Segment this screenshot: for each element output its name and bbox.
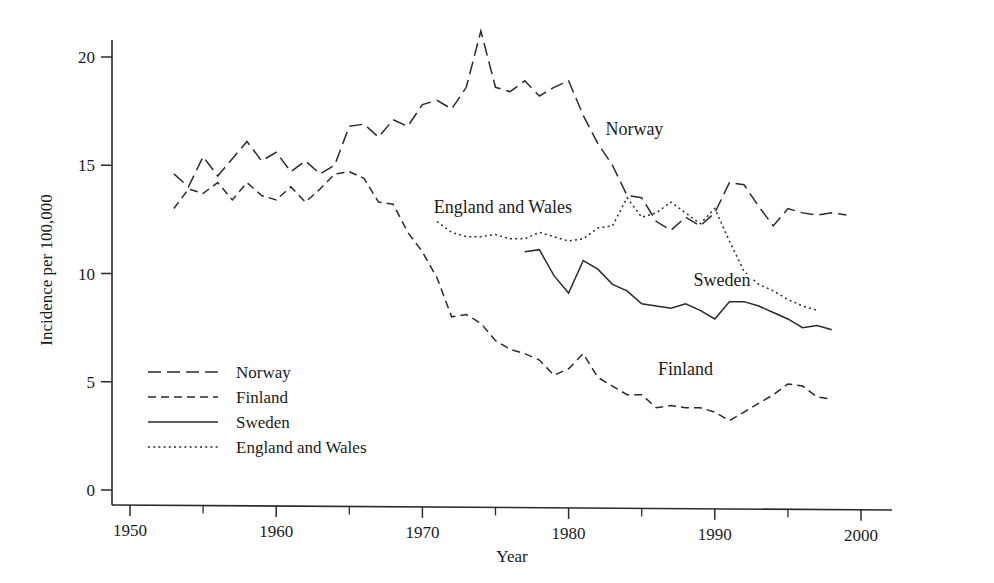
y-tick-label: 20 xyxy=(78,48,95,67)
inline-label-finland: Finland xyxy=(658,359,713,379)
legend-label-norway: Norway xyxy=(236,363,291,382)
x-axis-title: Year xyxy=(496,547,528,566)
inline-series-labels: NorwayNorwayEngland and WalesEngland and… xyxy=(434,119,751,379)
x-tick-label: 1980 xyxy=(552,524,586,543)
x-tick-label: 1960 xyxy=(259,522,293,541)
chart-container: 05101520195019601970198019902000 NorwayN… xyxy=(0,0,994,583)
inline-label-norway: Norway xyxy=(605,119,663,139)
axes: 05101520195019601970198019902000 xyxy=(78,40,892,545)
y-axis-title: Incidence per 100,000 xyxy=(37,194,56,346)
x-axis-line xyxy=(112,505,892,510)
legend: NorwayFinlandSwedenEngland and Wales xyxy=(148,363,367,457)
y-tick-label: 10 xyxy=(78,265,95,284)
x-tick-label: 2000 xyxy=(844,526,878,545)
x-tick-label: 1990 xyxy=(698,525,732,544)
legend-label-finland: Finland xyxy=(236,388,288,407)
x-tick-label: 1950 xyxy=(113,521,147,540)
y-tick-label: 15 xyxy=(78,156,95,175)
series-line-sweden xyxy=(525,250,832,330)
incidence-line-chart: 05101520195019601970198019902000 NorwayN… xyxy=(0,0,994,583)
legend-label-england-and-wales: England and Wales xyxy=(236,438,367,457)
x-tick-label: 1970 xyxy=(405,523,439,542)
y-tick-label: 5 xyxy=(87,373,96,392)
y-tick-label: 0 xyxy=(87,481,96,500)
inline-label-england-and-wales: England and Wales xyxy=(434,197,572,217)
legend-label-sweden: Sweden xyxy=(236,413,290,432)
inline-label-sweden: Sweden xyxy=(694,270,751,290)
